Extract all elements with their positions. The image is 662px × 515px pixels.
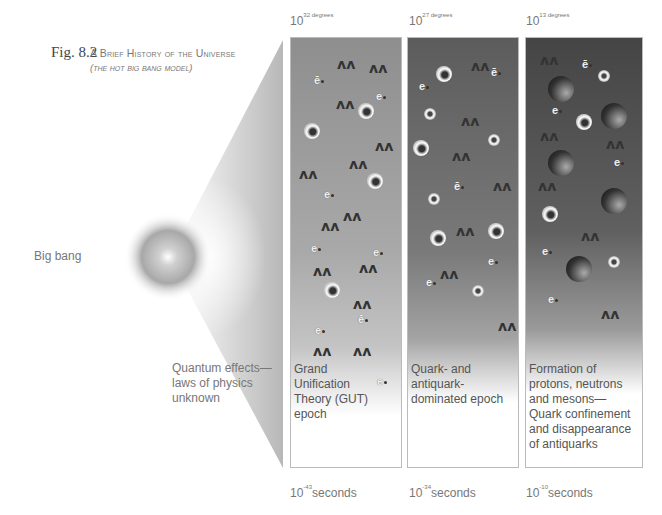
positron-icon: ē (582, 58, 592, 70)
electron-icon: e (488, 255, 498, 267)
electron-icon: e (377, 375, 387, 387)
epoch-description: Grand Unification Theory (GUT) epoch (294, 362, 374, 422)
figure-subtitle: (the hot big bang model) (90, 62, 192, 73)
time-label-2: 10-34seconds (409, 486, 476, 500)
photon-icon: ʌʌ (299, 166, 317, 182)
epoch-description: Formation of protons, neutrons and meson… (529, 362, 641, 452)
photon-icon: ʌʌ (313, 263, 331, 279)
quark-icon (430, 230, 446, 246)
temperature-label-1: 1032 degrees (290, 14, 333, 28)
photon-icon: ʌʌ (343, 208, 361, 224)
photon-icon: ʌʌ (471, 58, 489, 74)
electron-icon: e (548, 293, 558, 305)
electron-icon: e (376, 90, 386, 102)
temperature-label-2: 1027 degrees (409, 14, 452, 28)
electron-icon: e (311, 242, 321, 254)
photon-icon: ʌʌ (349, 156, 367, 172)
neutron-icon (601, 103, 627, 129)
antiquark-icon (428, 193, 440, 205)
antiquark-icon (424, 108, 436, 120)
antiquark-icon (598, 70, 610, 82)
quark-icon (488, 223, 504, 239)
quark-icon (367, 173, 383, 189)
photon-icon: ʌʌ (538, 178, 556, 194)
photon-icon: ʌʌ (581, 228, 599, 244)
epoch-panel-hadron: ʌʌ ē e ʌʌ ʌʌ e ʌʌ ʌʌ e e ʌʌ Formation of… (525, 37, 643, 468)
positron-icon: ē (454, 180, 464, 192)
quark-icon (576, 114, 592, 130)
proton-icon (548, 150, 574, 176)
photon-icon: ʌʌ (452, 148, 470, 164)
photon-icon: ʌʌ (606, 136, 624, 152)
quark-icon (413, 140, 429, 156)
electron-icon: e (542, 245, 552, 257)
photon-icon: ʌʌ (359, 260, 377, 276)
electron-icon: e (315, 324, 325, 336)
quark-icon (542, 206, 558, 222)
photon-icon: ʌʌ (601, 306, 619, 322)
photon-icon: ʌʌ (353, 296, 371, 312)
antiquark-icon (488, 134, 500, 146)
electron-icon: e (373, 246, 383, 258)
electron-icon: e (552, 104, 562, 116)
quark-icon (324, 282, 340, 298)
quantum-effects-label: Quantum effects— laws of physics unknown (172, 361, 282, 406)
neutron-icon (601, 188, 627, 214)
photon-icon: ʌʌ (540, 128, 558, 144)
photon-icon: ʌʌ (375, 138, 393, 154)
photon-icon: ʌʌ (456, 223, 474, 239)
photon-icon: ʌʌ (461, 113, 479, 129)
proton-icon (548, 76, 574, 102)
quark-icon (358, 103, 374, 119)
time-label-1: 10-43seconds (290, 486, 357, 500)
epoch-panel-gut: ʌʌ ʌʌ ē e ʌʌ ʌʌ ʌʌ ʌʌ e ʌʌ ʌʌ e e ʌʌ ʌʌ … (290, 37, 402, 468)
electron-icon: e (614, 156, 624, 168)
photon-icon: ʌʌ (337, 56, 355, 72)
positron-icon: ē (491, 66, 501, 78)
figure-title: A Brief History of the Universe (90, 47, 236, 59)
antiquark-icon (472, 285, 484, 297)
quark-icon (436, 66, 452, 82)
photon-icon: ʌʌ (336, 96, 354, 112)
photon-icon: ʌʌ (498, 318, 516, 334)
big-bang-label: Big bang (34, 249, 81, 263)
epoch-description: Quark- and antiquark-dominated epoch (411, 362, 519, 407)
electron-icon: e (426, 276, 436, 288)
epoch-panel-quark: ʌʌ ē e ʌʌ ʌʌ ē ʌʌ ʌʌ e ʌʌ e ʌʌ Quark- an… (407, 37, 519, 468)
electron-icon: e (419, 80, 429, 92)
antiquark-icon (608, 256, 620, 268)
photon-icon: ʌʌ (353, 343, 371, 359)
quark-icon (304, 123, 320, 139)
photon-icon: ʌʌ (369, 60, 387, 76)
positron-icon: ē (314, 74, 324, 86)
photon-icon: ʌʌ (313, 343, 331, 359)
time-label-3: 10-10seconds (526, 486, 593, 500)
photon-icon: ʌʌ (540, 52, 558, 68)
photon-icon: ʌʌ (493, 178, 511, 194)
temperature-label-3: 1013 degrees (526, 14, 569, 28)
positron-icon: ē (358, 313, 368, 325)
photon-icon: ʌʌ (321, 218, 339, 234)
proton-icon (566, 256, 592, 282)
photon-icon: ʌʌ (440, 266, 458, 282)
electron-icon: e (324, 188, 334, 200)
